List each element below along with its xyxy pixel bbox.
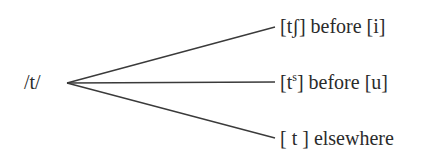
branch-label-2: [ t ] elsewhere [280, 126, 394, 150]
branch-label-1: [ts] before [u] [280, 70, 388, 94]
allophone: [ts] [280, 71, 304, 93]
environment: elsewhere [314, 127, 394, 149]
allophone: [tʃ] [280, 15, 306, 37]
environment: before [i] [311, 15, 386, 37]
branch-label-0: [tʃ] before [i] [280, 14, 386, 38]
allophone: [ t ] [280, 127, 309, 149]
environment: before [u] [309, 71, 388, 93]
branch-line-0 [67, 27, 275, 83]
branch-line-1 [67, 82, 275, 83]
allophone-close: ] [297, 71, 304, 93]
root-phoneme: /t/ [24, 70, 41, 94]
branch-line-2 [67, 83, 275, 138]
allophone-base: [t [280, 71, 292, 93]
